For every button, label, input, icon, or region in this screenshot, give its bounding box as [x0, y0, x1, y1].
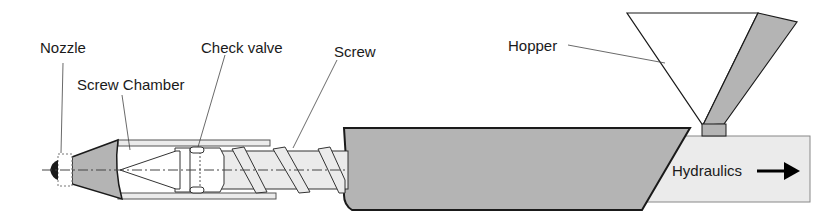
label-hydraulics: Hydraulics	[672, 163, 742, 178]
injection-molding-diagram: Nozzle Screw Chamber Check valve Screw H…	[0, 0, 839, 224]
diagram-drawing	[0, 0, 839, 224]
label-screw: Screw	[334, 44, 376, 59]
label-hopper: Hopper	[508, 38, 557, 53]
hopper-throat	[702, 124, 726, 136]
chamber-rail-bottom	[118, 193, 276, 199]
barrel-body	[344, 128, 690, 210]
chamber-rail-top	[118, 140, 270, 146]
label-screw-chamber: Screw Chamber	[77, 77, 185, 92]
label-nozzle: Nozzle	[40, 40, 86, 55]
label-check-valve: Check valve	[201, 40, 283, 55]
